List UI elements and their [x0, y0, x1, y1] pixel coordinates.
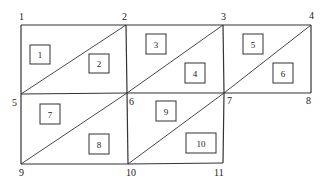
mesh-diagram: 12345678910 1234567891011	[0, 0, 326, 186]
element-box-8: 8	[89, 134, 109, 154]
mesh-edge-5-6	[21, 93, 127, 94]
diagonal-edge-7-4	[224, 25, 311, 93]
element-box-6: 6	[273, 63, 293, 83]
element-number: 6	[281, 69, 286, 79]
node-label-7: 7	[227, 95, 232, 106]
element-box-7: 7	[40, 104, 60, 124]
element-box-9: 9	[156, 101, 176, 121]
element-box-4: 4	[185, 63, 205, 83]
element-number: 3	[154, 40, 159, 50]
node-label-4: 4	[309, 10, 314, 21]
element-number: 4	[193, 69, 198, 79]
node-label-5: 5	[12, 97, 17, 108]
element-number: 1	[38, 50, 43, 60]
element-box-1: 1	[30, 45, 50, 64]
node-label-3: 3	[221, 11, 226, 22]
mesh-edge-10-11	[128, 163, 223, 164]
element-box-2: 2	[89, 54, 109, 73]
diagonal-edge-9-6	[21, 93, 127, 164]
element-number: 9	[164, 107, 169, 117]
node-label-1: 1	[19, 11, 24, 22]
element-number: 7	[48, 110, 53, 120]
element-number: 5	[251, 40, 256, 50]
mesh-edge-2-6	[126, 25, 127, 93]
diagonal-edge-6-3	[127, 25, 223, 93]
element-box-5: 5	[243, 34, 263, 54]
mesh-edge-7-11	[223, 93, 224, 163]
element-number: 10	[197, 139, 207, 149]
node-label-11: 11	[214, 167, 224, 178]
node-label-6: 6	[129, 96, 134, 107]
node-label-9: 9	[19, 167, 24, 178]
element-box-3: 3	[146, 34, 166, 54]
node-label-2: 2	[122, 11, 127, 22]
element-box-10: 10	[186, 133, 216, 153]
mesh-edge-3-7	[223, 25, 224, 93]
element-number: 8	[97, 140, 102, 150]
node-label-10: 10	[126, 167, 136, 178]
node-label-8: 8	[306, 95, 311, 106]
mesh-edge-6-10	[127, 93, 128, 164]
element-number: 2	[97, 59, 102, 69]
